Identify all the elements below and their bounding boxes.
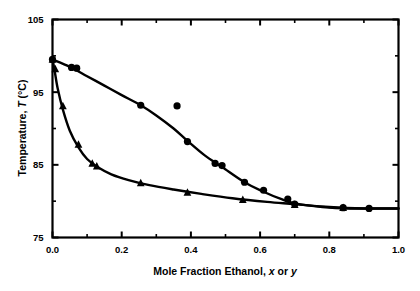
data-point-circle (218, 162, 225, 169)
y-axis-title: Temperature, T (°C) (16, 80, 28, 177)
x-tick-label: 1.0 (392, 244, 405, 255)
data-point-circle (212, 160, 219, 167)
x-tick-label: 0.6 (253, 244, 266, 255)
x-axis-title: Mole Fraction Ethanol, x or y (153, 265, 298, 277)
data-point-circle (173, 102, 180, 109)
x-tick-label: 0.8 (323, 244, 336, 255)
chart-canvas: 0.00.20.40.60.81.0 758595105 Mole Fracti… (0, 0, 420, 291)
data-point-circle (284, 195, 291, 202)
y-tick-label: 105 (28, 14, 45, 25)
data-point-circle (365, 205, 372, 212)
data-point-circle (241, 179, 248, 186)
y-tick-label: 95 (33, 87, 44, 98)
x-tick-label: 0.4 (184, 244, 198, 255)
x-tick-label: 0.2 (115, 244, 128, 255)
vle-chart-figure: 0.00.20.40.60.81.0 758595105 Mole Fracti… (0, 0, 420, 291)
y-tick-label: 85 (33, 159, 44, 170)
data-point-circle (260, 187, 267, 194)
data-point-circle (184, 138, 191, 145)
data-point-circle (137, 102, 144, 109)
data-point-circle (73, 65, 80, 72)
y-tick-label: 75 (33, 232, 44, 243)
x-tick-label: 0.0 (46, 244, 59, 255)
chart-background (0, 0, 420, 291)
